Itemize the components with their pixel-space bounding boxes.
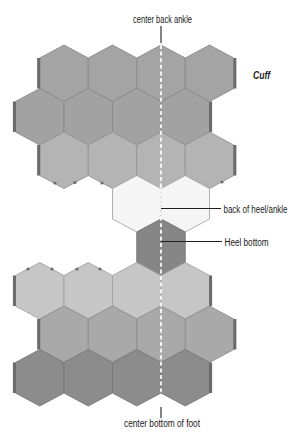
side-bar-left	[37, 145, 40, 176]
side-bar-right	[233, 58, 236, 89]
seam-marker	[98, 267, 101, 270]
label-center-bottom-of-foot: center bottom of foot	[124, 418, 200, 429]
side-bar-left	[37, 58, 40, 89]
side-bar-right	[233, 319, 236, 350]
label-back-of-heel-ankle: back of heel/ankle	[224, 204, 288, 215]
side-bar-left	[13, 276, 16, 307]
seam-marker	[73, 181, 76, 184]
centerline-gap-on-white	[160, 186, 162, 220]
hexagon-grid	[16, 45, 234, 406]
side-bar-right	[233, 145, 236, 176]
side-bar-right	[209, 102, 212, 133]
seam-marker	[26, 267, 29, 270]
label-center-back-ankle: center back ankle	[133, 14, 192, 25]
label-heel-bottom: Heel bottom	[225, 237, 269, 248]
seam-marker	[100, 181, 103, 184]
side-bar-right	[209, 276, 212, 307]
side-bar-right	[209, 363, 212, 394]
side-bar-left	[13, 363, 16, 394]
seam-marker	[50, 267, 53, 270]
sock-hexagon-diagram: center back ankle Cuff back of heel/ankl…	[0, 0, 299, 434]
label-cuff: Cuff	[253, 69, 271, 81]
side-bar-left	[13, 102, 16, 133]
side-bar-left	[37, 319, 40, 350]
seam-marker	[220, 180, 223, 183]
seam-marker	[53, 181, 56, 184]
seam-marker	[75, 267, 78, 270]
